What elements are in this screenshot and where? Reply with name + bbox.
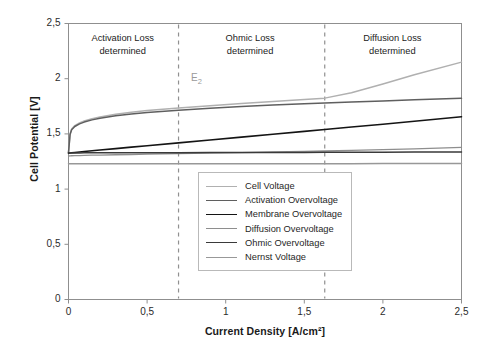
legend-item: Diffusion Overvoltage — [206, 222, 342, 236]
legend-item: Cell Voltage — [206, 179, 342, 193]
legend-label: Activation Overvoltage — [245, 195, 338, 205]
region-label-line2: determined — [63, 45, 183, 58]
y-tick-label: 2 — [27, 72, 61, 83]
y-tick-label: 0 — [27, 293, 61, 304]
curve-ohmic-overvoltage — [69, 152, 462, 153]
y-tick-label: 0,5 — [27, 238, 61, 249]
x-tick-label: 1 — [209, 306, 243, 317]
legend-item: Ohmic Overvoltage — [206, 236, 342, 250]
legend-label: Cell Voltage — [245, 181, 295, 191]
region-label: Diffusion Lossdetermined — [332, 32, 452, 57]
y-tick-label: 1,5 — [27, 127, 61, 138]
region-label: Ohmic Lossdetermined — [190, 32, 310, 57]
legend-swatch-icon — [206, 257, 237, 258]
legend-swatch-icon — [206, 200, 237, 201]
chart-legend: Cell VoltageActivation OvervoltageMembra… — [198, 172, 352, 271]
x-axis-label: Current Density [A/cm²] — [68, 325, 462, 337]
annotation-text: E — [191, 72, 198, 83]
region-label-line1: Activation Loss — [63, 32, 183, 45]
region-label-line1: Ohmic Loss — [190, 32, 310, 45]
curve-annotation-e2: E2 — [191, 72, 202, 86]
region-label: Activation Lossdetermined — [63, 32, 183, 57]
y-tick-label: 1 — [27, 183, 61, 194]
x-tick-label: 0,5 — [130, 306, 164, 317]
legend-label: Membrane Overvoltage — [245, 209, 342, 219]
legend-swatch-icon — [206, 242, 237, 243]
legend-item: Nernst Voltage — [206, 250, 342, 264]
x-tick-label: 0 — [52, 306, 86, 317]
legend-label: Nernst Voltage — [245, 252, 306, 262]
legend-label: Diffusion Overvoltage — [245, 224, 334, 234]
legend-swatch-icon — [206, 186, 237, 187]
region-label-line1: Diffusion Loss — [332, 32, 452, 45]
region-label-line2: determined — [332, 45, 452, 58]
legend-swatch-icon — [206, 228, 237, 229]
x-tick-label: 2,5 — [445, 306, 479, 317]
x-tick-label: 1,5 — [287, 306, 321, 317]
y-tick-label: 2,5 — [27, 17, 61, 28]
legend-item: Membrane Overvoltage — [206, 207, 342, 221]
legend-label: Ohmic Overvoltage — [245, 238, 325, 248]
chart-figure: Cell Potential [V] Current Density [A/cm… — [0, 0, 494, 350]
annotation-subscript: 2 — [198, 77, 202, 86]
legend-item: Activation Overvoltage — [206, 193, 342, 207]
region-label-line2: determined — [190, 45, 310, 58]
x-tick-label: 2 — [366, 306, 400, 317]
legend-swatch-icon — [206, 214, 237, 215]
